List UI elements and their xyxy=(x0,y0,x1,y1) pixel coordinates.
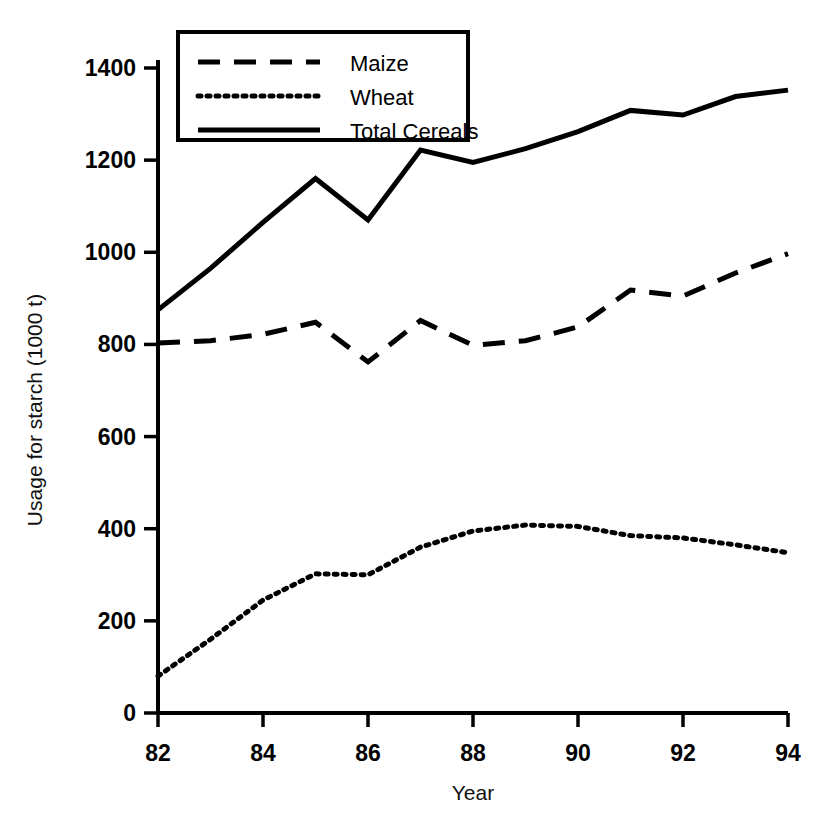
chart-legend: MaizeWheatTotal Cereals xyxy=(178,32,478,144)
x-axis-tick-labels: 82848688909294 xyxy=(145,740,801,766)
series-line-wheat xyxy=(158,525,788,676)
legend-label-maize: Maize xyxy=(350,51,409,76)
y-tick-label: 600 xyxy=(98,424,136,450)
y-tick-label: 1000 xyxy=(85,239,136,265)
x-tick-label: 82 xyxy=(145,740,171,766)
line-chart: 0200400600800100012001400 Usage for star… xyxy=(0,0,836,827)
x-axis-ticks xyxy=(158,713,788,727)
x-axis-title: Year xyxy=(452,781,494,804)
legend-label-total-cereals: Total Cereals xyxy=(350,119,478,144)
x-axis: 82848688909294 Year xyxy=(145,713,801,804)
y-tick-label: 200 xyxy=(98,608,136,634)
data-series-group xyxy=(158,90,788,676)
y-axis: 0200400600800100012001400 Usage for star… xyxy=(23,55,158,726)
y-tick-label: 0 xyxy=(123,700,136,726)
x-tick-label: 84 xyxy=(250,740,276,766)
legend-label-wheat: Wheat xyxy=(350,85,414,110)
chart-canvas: 0200400600800100012001400 Usage for star… xyxy=(0,0,836,827)
series-line-maize xyxy=(158,254,788,362)
y-tick-label: 1200 xyxy=(85,147,136,173)
x-tick-label: 88 xyxy=(460,740,486,766)
x-tick-label: 86 xyxy=(355,740,381,766)
x-tick-label: 92 xyxy=(670,740,696,766)
y-axis-ticks xyxy=(144,68,158,713)
y-axis-title: Usage for starch (1000 t) xyxy=(23,294,46,526)
x-tick-label: 94 xyxy=(775,740,801,766)
y-axis-tick-labels: 0200400600800100012001400 xyxy=(85,55,136,726)
y-tick-label: 1400 xyxy=(85,55,136,81)
y-tick-label: 800 xyxy=(98,331,136,357)
y-tick-label: 400 xyxy=(98,516,136,542)
x-tick-label: 90 xyxy=(565,740,591,766)
